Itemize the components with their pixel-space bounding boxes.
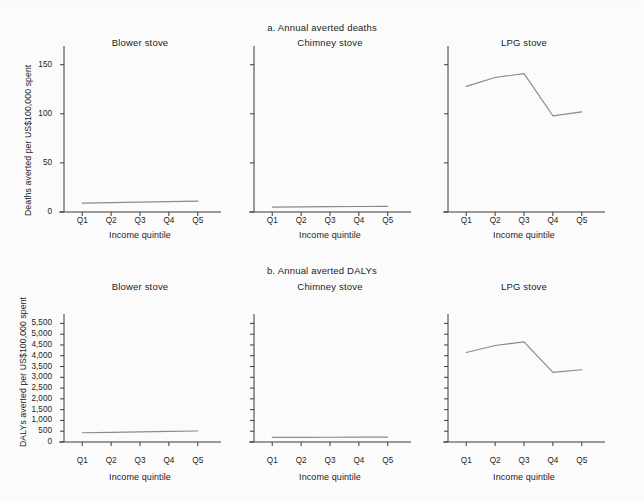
plot-area <box>248 46 414 228</box>
x-axis-title: Income quintile <box>64 230 216 240</box>
figure-canvas: a. Annual averted deaths Deaths averted … <box>0 0 644 502</box>
x-tick-label: Q2 <box>101 216 121 225</box>
y-tick-label: 3,500 <box>12 362 52 371</box>
x-tick-label: Q4 <box>159 456 179 465</box>
panel-title: LPG stove <box>448 281 600 292</box>
x-tick-label: Q5 <box>188 216 208 225</box>
data-line <box>466 342 582 373</box>
y-tick-label: 5,000 <box>12 329 52 338</box>
y-tick-label: 1,000 <box>12 415 52 424</box>
y-tick-label: 100 <box>12 109 52 118</box>
x-tick-label: Q1 <box>72 456 92 465</box>
x-tick-label: Q1 <box>456 456 476 465</box>
y-tick-label: 4,500 <box>12 340 52 349</box>
y-tick-label: 1,500 <box>12 405 52 414</box>
x-tick-label: Q5 <box>378 216 398 225</box>
x-tick-label: Q3 <box>320 216 340 225</box>
x-tick-label: Q2 <box>291 216 311 225</box>
y-axis-title-deaths: Deaths averted per US$100,000 spent <box>23 65 33 216</box>
x-tick-label: Q3 <box>514 456 534 465</box>
y-tick-label: 5,500 <box>12 318 52 327</box>
x-tick-label: Q4 <box>543 216 563 225</box>
data-line <box>272 206 388 207</box>
y-tick-label: 2,500 <box>12 383 52 392</box>
x-tick-label: Q1 <box>72 216 92 225</box>
x-tick-label: Q1 <box>456 216 476 225</box>
x-tick-label: Q4 <box>349 456 369 465</box>
x-tick-label: Q2 <box>485 216 505 225</box>
data-line <box>82 431 198 433</box>
data-line <box>82 201 198 203</box>
x-tick-label: Q3 <box>130 216 150 225</box>
y-tick-label: 2,000 <box>12 394 52 403</box>
plot-area <box>248 314 414 458</box>
x-tick-label: Q5 <box>572 216 592 225</box>
y-tick-label: 3,000 <box>12 372 52 381</box>
panel-title: Chimney stove <box>254 281 406 292</box>
panel-title: Blower stove <box>64 281 216 292</box>
x-tick-label: Q4 <box>159 216 179 225</box>
section-title-b: b. Annual averted DALYs <box>0 265 644 276</box>
section-title-a: a. Annual averted deaths <box>0 22 644 33</box>
x-tick-label: Q3 <box>130 456 150 465</box>
x-axis-title: Income quintile <box>448 230 600 240</box>
x-tick-label: Q5 <box>188 456 208 465</box>
plot-area <box>442 314 608 458</box>
plot-area <box>58 46 224 228</box>
x-axis-title: Income quintile <box>64 472 216 482</box>
plot-area <box>442 46 608 228</box>
x-tick-label: Q4 <box>349 216 369 225</box>
y-tick-label: 50 <box>12 158 52 167</box>
x-tick-label: Q4 <box>543 456 563 465</box>
x-tick-label: Q3 <box>514 216 534 225</box>
y-tick-label: 0 <box>12 207 52 216</box>
x-axis-title: Income quintile <box>254 230 406 240</box>
y-tick-label: 0 <box>12 437 52 446</box>
x-tick-label: Q2 <box>291 456 311 465</box>
y-tick-label: 4,000 <box>12 351 52 360</box>
y-tick-label: 500 <box>12 426 52 435</box>
x-axis-title: Income quintile <box>448 472 600 482</box>
x-tick-label: Q1 <box>262 456 282 465</box>
x-tick-label: Q5 <box>572 456 592 465</box>
x-tick-label: Q1 <box>262 216 282 225</box>
y-tick-label: 150 <box>12 60 52 69</box>
x-tick-label: Q2 <box>101 456 121 465</box>
x-tick-label: Q3 <box>320 456 340 465</box>
x-tick-label: Q5 <box>378 456 398 465</box>
data-line <box>466 74 582 116</box>
x-axis-title: Income quintile <box>254 472 406 482</box>
plot-area <box>58 314 224 458</box>
x-tick-label: Q2 <box>485 456 505 465</box>
